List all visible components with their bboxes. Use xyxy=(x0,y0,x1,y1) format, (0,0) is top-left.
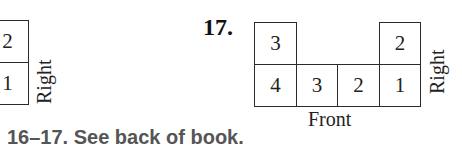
cell-value: 3 xyxy=(312,73,323,98)
right-label: Right xyxy=(426,50,449,94)
answer-note: 16–17. See back of book. xyxy=(7,126,244,149)
grid-cell: 3 xyxy=(296,64,338,107)
cell-value: 2 xyxy=(2,29,13,54)
right-label: Right xyxy=(33,60,56,104)
grid-cell: 2 xyxy=(337,64,380,107)
cell-value: 2 xyxy=(353,73,364,98)
cell-value: 2 xyxy=(395,31,406,56)
front-label: Front xyxy=(308,108,351,131)
grid-cell: 1 xyxy=(379,64,421,107)
grid-cell: 1 xyxy=(0,62,29,105)
cell-value: 1 xyxy=(395,73,406,98)
grid-cell: 4 xyxy=(254,64,297,107)
cell-value: 3 xyxy=(270,31,281,56)
exercise-number: 17. xyxy=(203,14,233,41)
cell-value: 1 xyxy=(2,71,13,96)
grid-cell: 3 xyxy=(254,22,297,65)
grid-cell: 2 xyxy=(379,22,421,65)
grid-cell: 2 xyxy=(0,20,29,63)
cell-value: 4 xyxy=(270,73,281,98)
